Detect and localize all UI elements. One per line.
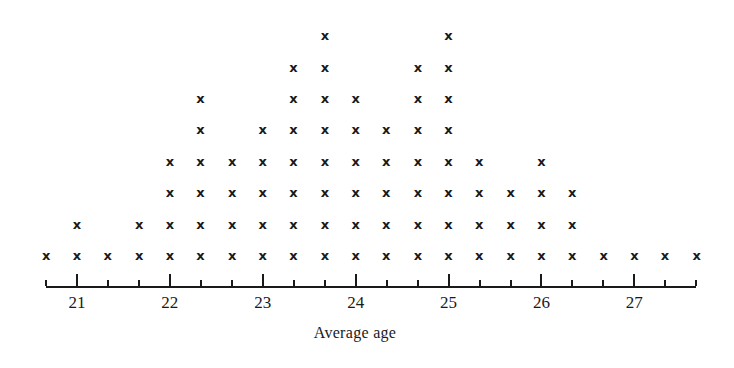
data-point-x-mark: x (534, 248, 548, 264)
minor-tick (510, 280, 512, 286)
x-tick-label: 22 (150, 293, 190, 313)
data-point-x-mark: x (225, 217, 239, 233)
minor-tick (479, 280, 481, 286)
major-tick (355, 274, 357, 286)
data-point-x-mark: x (627, 248, 641, 264)
data-point-x-mark: x (349, 248, 363, 264)
data-point-x-mark: x (132, 248, 146, 264)
data-point-x-mark: x (256, 217, 270, 233)
data-point-x-mark: x (132, 217, 146, 233)
data-point-x-mark: x (534, 154, 548, 170)
x-tick-label: 25 (429, 293, 469, 313)
data-point-x-mark: x (411, 60, 425, 76)
data-point-x-mark: x (163, 217, 177, 233)
data-point-x-mark: x (70, 248, 84, 264)
dot-plot: xxxxxxxxxxxxxxxxxxxxxxxxxxxxxxxxxxxxxxxx… (0, 0, 734, 368)
minor-tick (417, 280, 419, 286)
data-point-x-mark: x (504, 217, 518, 233)
data-point-x-mark: x (318, 91, 332, 107)
data-point-x-mark: x (534, 217, 548, 233)
data-point-x-mark: x (442, 91, 456, 107)
data-point-x-mark: x (442, 154, 456, 170)
data-point-x-mark: x (349, 91, 363, 107)
data-point-x-mark: x (193, 122, 207, 138)
data-point-x-mark: x (504, 185, 518, 201)
data-point-x-mark: x (286, 122, 300, 138)
data-point-x-mark: x (256, 154, 270, 170)
data-point-x-mark: x (349, 217, 363, 233)
data-point-x-mark: x (349, 122, 363, 138)
data-point-x-mark: x (379, 248, 393, 264)
data-point-x-mark: x (565, 217, 579, 233)
data-point-x-mark: x (286, 154, 300, 170)
x-axis-title: Average age (255, 324, 455, 342)
data-point-x-mark: x (411, 122, 425, 138)
data-point-x-mark: x (349, 154, 363, 170)
minor-tick (45, 280, 47, 286)
x-tick-label: 27 (614, 293, 654, 313)
data-point-x-mark: x (565, 185, 579, 201)
data-point-x-mark: x (318, 122, 332, 138)
minor-tick (695, 280, 697, 286)
data-point-x-mark: x (318, 28, 332, 44)
data-point-x-mark: x (472, 185, 486, 201)
data-point-x-mark: x (318, 154, 332, 170)
minor-tick (107, 280, 109, 286)
minor-tick (231, 280, 233, 286)
minor-tick (324, 280, 326, 286)
major-tick (540, 274, 542, 286)
major-tick (448, 274, 450, 286)
data-point-x-mark: x (286, 91, 300, 107)
data-point-x-mark: x (411, 217, 425, 233)
minor-tick (602, 280, 604, 286)
data-point-x-mark: x (690, 248, 704, 264)
minor-tick (664, 280, 666, 286)
data-point-x-mark: x (472, 248, 486, 264)
data-point-x-mark: x (286, 185, 300, 201)
major-tick (633, 274, 635, 286)
data-point-x-mark: x (442, 60, 456, 76)
data-point-x-mark: x (472, 217, 486, 233)
major-tick (262, 274, 264, 286)
data-point-x-mark: x (163, 185, 177, 201)
data-point-x-mark: x (163, 154, 177, 170)
data-point-x-mark: x (318, 60, 332, 76)
data-point-x-mark: x (225, 185, 239, 201)
data-point-x-mark: x (286, 248, 300, 264)
data-point-x-mark: x (442, 185, 456, 201)
data-point-x-mark: x (286, 60, 300, 76)
data-point-x-mark: x (379, 217, 393, 233)
data-point-x-mark: x (101, 248, 115, 264)
data-point-x-mark: x (379, 185, 393, 201)
data-point-x-mark: x (318, 248, 332, 264)
x-tick-label: 21 (57, 293, 97, 313)
data-point-x-mark: x (193, 185, 207, 201)
data-point-x-mark: x (411, 154, 425, 170)
data-point-x-mark: x (504, 248, 518, 264)
data-point-x-mark: x (411, 91, 425, 107)
data-point-x-mark: x (442, 122, 456, 138)
data-point-x-mark: x (442, 217, 456, 233)
data-point-x-mark: x (379, 122, 393, 138)
data-point-x-mark: x (256, 122, 270, 138)
data-point-x-mark: x (70, 217, 84, 233)
data-point-x-mark: x (225, 154, 239, 170)
data-point-x-mark: x (193, 154, 207, 170)
data-point-x-mark: x (379, 154, 393, 170)
minor-tick (200, 280, 202, 286)
minor-tick (571, 280, 573, 286)
data-point-x-mark: x (349, 185, 363, 201)
data-point-x-mark: x (193, 91, 207, 107)
data-point-x-mark: x (256, 248, 270, 264)
data-point-x-mark: x (534, 185, 548, 201)
data-point-x-mark: x (442, 28, 456, 44)
data-point-x-mark: x (318, 217, 332, 233)
x-tick-label: 23 (243, 293, 283, 313)
major-tick (76, 274, 78, 286)
x-tick-label: 26 (521, 293, 561, 313)
data-point-x-mark: x (39, 248, 53, 264)
data-point-x-mark: x (193, 217, 207, 233)
data-point-x-mark: x (565, 248, 579, 264)
data-point-x-mark: x (597, 248, 611, 264)
x-tick-label: 24 (336, 293, 376, 313)
